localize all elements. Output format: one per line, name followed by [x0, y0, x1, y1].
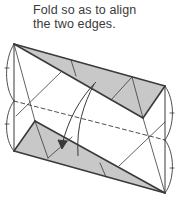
origami-diagram: [0, 0, 181, 203]
